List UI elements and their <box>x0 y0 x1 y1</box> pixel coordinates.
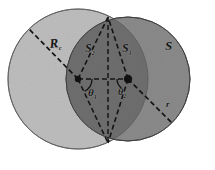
label-area-S: S <box>165 38 172 53</box>
geometry-diagram: Rc S2 S1 S θ1 θ2 r <box>0 0 215 170</box>
right-center-vertex-dot <box>124 75 132 83</box>
label-radius-r: r <box>166 99 170 109</box>
figure-root: Rc S2 S1 S θ1 θ2 r <box>0 0 215 170</box>
left-center-vertex-dot <box>75 76 81 82</box>
